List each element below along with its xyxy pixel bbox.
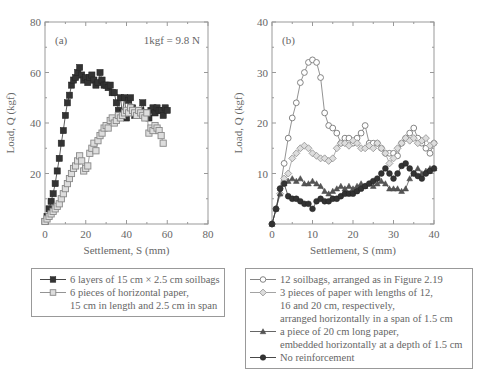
legend-label: 16 and 20 cm, respectively, xyxy=(280,299,453,312)
panel-a-chart: 02040608020406080Settlement, S (mm)Load,… xyxy=(4,16,214,257)
x-tick-label: 20 xyxy=(348,228,360,240)
data-point xyxy=(50,191,56,197)
legend-panel-a: 6 layers of 15 cm × 2.5 cm soilbags6 pie… xyxy=(31,268,225,317)
x-axis-label: Settlement, S (mm) xyxy=(84,244,170,257)
legend-panel-b: 12 soilbags, arranged as in Figure 2.193… xyxy=(245,268,473,369)
data-point xyxy=(415,166,421,171)
data-point xyxy=(48,198,54,204)
legend-label: 6 layers of 15 cm × 2.5 cm soilbags xyxy=(70,273,220,286)
data-point xyxy=(273,206,279,212)
data-point xyxy=(395,171,401,177)
panel-b-chart: 01020304010203040Settlement, S (mm)Load,… xyxy=(232,16,440,257)
legend-label: No reinforcement xyxy=(280,351,354,364)
data-point xyxy=(260,355,266,361)
data-point xyxy=(362,123,368,129)
x-tick-label: 0 xyxy=(42,228,48,240)
data-point xyxy=(346,183,352,188)
data-point xyxy=(289,176,295,181)
data-point xyxy=(269,221,275,227)
y-tick-label: 30 xyxy=(257,67,269,79)
data-series xyxy=(269,161,437,227)
data-point xyxy=(306,201,312,207)
data-point xyxy=(302,70,308,76)
data-point xyxy=(419,176,425,182)
x-tick-label: 10 xyxy=(307,228,319,240)
legend-entry: a piece of 20 cm long paper,embedded hor… xyxy=(246,325,466,351)
data-point xyxy=(297,176,303,181)
x-tick-label: 30 xyxy=(388,228,400,240)
legend-entry: 3 pieces of paper with lengths of 12,16 … xyxy=(246,286,466,325)
legend-label: embedded horizontally at a depth of 1.5 … xyxy=(280,338,463,351)
y-axis-label: Load, Q (kgf) xyxy=(4,92,17,153)
data-point xyxy=(62,112,68,118)
data-point xyxy=(77,64,83,70)
data-point xyxy=(427,150,433,156)
data-point xyxy=(374,176,380,182)
panel-label: (b) xyxy=(282,34,295,47)
data-point xyxy=(52,181,58,187)
data-point xyxy=(310,206,316,212)
y-axis-label: Load, Q (kgf) xyxy=(232,92,245,153)
data-point xyxy=(50,277,56,283)
data-point xyxy=(111,90,117,96)
data-point xyxy=(330,125,336,131)
data-point xyxy=(64,100,70,106)
plot-frame xyxy=(45,22,208,224)
data-point xyxy=(338,183,344,188)
x-axis-label: Settlement, S (mm) xyxy=(310,244,396,257)
data-point xyxy=(160,140,166,146)
data-point xyxy=(164,107,170,113)
legend-label: arranged horizontally in a span of 1.5 c… xyxy=(280,312,453,325)
data-point xyxy=(383,166,389,172)
filled-triangle-marker-icon xyxy=(246,325,280,338)
data-point xyxy=(289,115,295,121)
data-point xyxy=(50,290,56,296)
legend-entry: 6 layers of 15 cm × 2.5 cm soilbags xyxy=(36,273,218,286)
open-circle-marker-icon xyxy=(246,273,280,286)
x-tick-label: 40 xyxy=(121,228,133,240)
data-point xyxy=(158,133,164,139)
data-point xyxy=(281,161,287,167)
data-point xyxy=(66,92,72,98)
data-point xyxy=(297,80,303,86)
data-point xyxy=(260,289,267,296)
x-tick-label: 40 xyxy=(429,228,441,240)
data-point xyxy=(293,100,299,106)
dotted-square-marker-icon xyxy=(36,286,70,299)
x-tick-label: 0 xyxy=(269,228,275,240)
data-point xyxy=(60,127,66,133)
data-point xyxy=(144,110,150,116)
legend-label: 15 cm in length and 2.5 cm in span xyxy=(70,299,217,312)
data-point xyxy=(391,176,397,182)
data-point xyxy=(403,161,409,167)
data-point xyxy=(318,75,324,81)
data-point xyxy=(105,125,111,131)
filled-circle-marker-icon xyxy=(246,351,280,364)
legend-entry: 12 soilbags, arranged as in Figure 2.19 xyxy=(246,273,466,286)
data-point xyxy=(334,130,340,136)
x-tick-label: 20 xyxy=(80,228,92,240)
data-point xyxy=(358,130,364,136)
y-tick-label: 40 xyxy=(30,117,42,129)
data-point xyxy=(378,171,384,177)
data-point xyxy=(281,181,287,187)
unit-annotation: 1kgf = 9.8 N xyxy=(144,34,200,46)
x-tick-label: 80 xyxy=(203,228,215,240)
data-point xyxy=(322,110,328,116)
legend-label: 12 soilbags, arranged as in Figure 2.19 xyxy=(280,273,443,286)
data-point xyxy=(407,166,413,172)
y-tick-label: 20 xyxy=(257,117,269,129)
data-point xyxy=(285,135,291,141)
data-point xyxy=(387,171,393,177)
data-point xyxy=(277,186,283,192)
data-series xyxy=(42,105,166,225)
data-point xyxy=(58,140,64,146)
data-point xyxy=(310,178,316,183)
y-tick-label: 40 xyxy=(257,16,269,28)
data-point xyxy=(107,82,113,88)
data-point xyxy=(85,163,91,169)
data-point xyxy=(407,130,413,136)
legend-label: 6 pieces of horizontal paper, xyxy=(70,286,217,299)
panel-label: (a) xyxy=(55,34,68,47)
legend-label: 3 pieces of paper with lengths of 12, xyxy=(280,286,453,299)
